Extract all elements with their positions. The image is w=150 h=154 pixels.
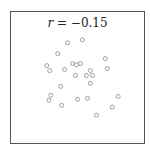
data-point: [90, 74, 94, 78]
data-point: [94, 113, 98, 117]
scatter-plot: r = −0.15: [10, 11, 145, 144]
data-point: [63, 68, 67, 72]
data-point: [84, 74, 88, 78]
data-point: [80, 38, 84, 42]
data-point: [88, 81, 92, 85]
data-point: [75, 63, 79, 67]
data-point: [76, 97, 80, 101]
scatter-points: [11, 12, 144, 143]
data-point: [78, 62, 82, 66]
data-point: [71, 62, 75, 66]
data-point: [105, 67, 109, 71]
data-point: [74, 74, 78, 78]
data-point: [110, 105, 114, 109]
data-point: [45, 64, 49, 68]
data-point: [59, 84, 63, 88]
data-point: [66, 41, 70, 45]
data-point: [103, 57, 107, 61]
data-point: [49, 93, 53, 97]
data-point: [48, 69, 52, 73]
data-point: [88, 69, 92, 73]
data-point: [60, 103, 64, 107]
data-point: [116, 94, 120, 98]
data-point: [86, 96, 90, 100]
data-point: [47, 98, 51, 102]
data-point: [56, 52, 60, 56]
